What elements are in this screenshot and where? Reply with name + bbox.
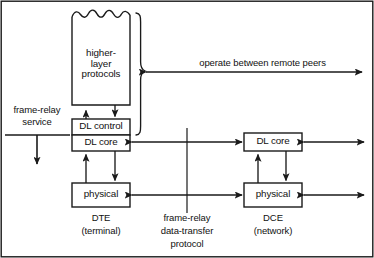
dte-caption-label: DTE (terminal) [72,212,130,238]
dte-dl-core-label: DL core [72,137,130,148]
dce-dl-core-label: DL core [244,136,302,147]
higher-layer-brace [136,13,145,135]
higher-layer-protocols-label: higher- layer protocols [72,48,130,80]
dte-dl-control-label: DL control [72,121,130,132]
frame-relay-service-label: frame-relay service [2,104,72,129]
dte-physical-label: physical [72,189,130,200]
dce-physical-label: physical [244,189,302,200]
frame-relay-protocol-diagram: higher- layer protocols DL control DL co… [0,0,374,258]
frame-relay-data-transfer-protocol-label: frame-relay data-transfer protocol [147,212,227,250]
operate-between-remote-peers-label: operate between remote peers [180,58,345,68]
dce-caption-label: DCE (network) [244,212,302,238]
